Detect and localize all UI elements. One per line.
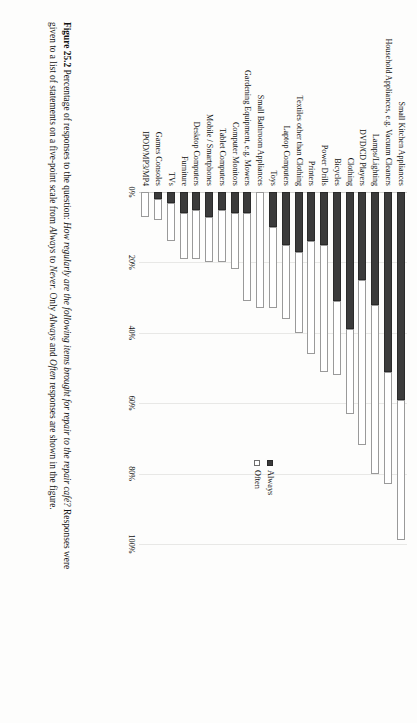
bar-segment-often (346, 329, 354, 413)
caption-scale-to: Never (48, 265, 58, 287)
bar-segment-often (205, 217, 213, 263)
category-axis-label: Clothing (346, 158, 354, 186)
figure-caption: Figure 25.2 Percentage of responses to t… (45, 22, 74, 574)
category-axis-label: DVD/CD Players (358, 129, 366, 186)
gridline (139, 403, 407, 404)
category-axis-label: Small Bathroom Appliances (256, 95, 264, 186)
category-axis-label: Games Consoles (154, 132, 162, 186)
bar-segment-often (307, 241, 315, 354)
bar-row (231, 192, 239, 269)
category-axis-label: IPOD/MP3/MP4 (141, 131, 149, 186)
bar-row (218, 192, 226, 262)
bar-segment-often (192, 210, 200, 259)
bar-segment-often (141, 192, 149, 217)
value-axis-tick-label: 80% (127, 466, 135, 481)
bar-row (180, 192, 188, 259)
category-axis-label: Furniture (180, 156, 188, 186)
value-axis-tick-label: 100% (127, 535, 135, 554)
caption-body2: . Only (48, 288, 58, 314)
bar-segment-often (295, 252, 303, 333)
category-axis-label: Mobile / Smartphones (205, 114, 213, 186)
bar-row (307, 192, 315, 354)
value-axis-tick-label: 60% (127, 396, 135, 411)
bar-row (384, 192, 392, 484)
outlined-square-white-icon (254, 460, 260, 466)
bar-segment-often (218, 210, 226, 263)
bar-segment-always (384, 192, 392, 372)
bar-row (282, 192, 290, 319)
caption-legend-always: Always (48, 314, 58, 341)
bar-segment-often (320, 245, 328, 372)
bar-segment-often (397, 400, 405, 541)
bar-row (154, 192, 162, 220)
bar-segment-often (180, 213, 188, 259)
bar-row (333, 192, 341, 375)
bar-segment-always (243, 192, 251, 213)
caption-body4: responses are shown in the figure. (48, 380, 58, 510)
bar-segment-often (282, 245, 290, 319)
category-axis-label: Household Appliances, e.g. Vacuum Cleane… (384, 38, 392, 186)
legend-item-label: Always (266, 470, 274, 495)
bar-row (167, 192, 175, 241)
legend-item-label: Often (252, 470, 260, 489)
legend-item: Often (252, 460, 260, 544)
bar-segment-always (371, 192, 379, 305)
bar-segment-often (333, 301, 341, 375)
bar-segment-always (154, 192, 162, 199)
value-axis-tick-label: 20% (127, 255, 135, 270)
bar-segment-always (397, 192, 405, 400)
bar-segment-always (269, 192, 277, 227)
bar-row (205, 192, 213, 262)
bar-row (295, 192, 303, 333)
gridline (139, 333, 407, 334)
bar-segment-always (282, 192, 290, 245)
caption-scale-mid: to (48, 253, 58, 265)
bar-segment-often (384, 372, 392, 485)
bar-segment-often (243, 213, 251, 301)
bar-row (358, 192, 366, 445)
value-axis-tick-label: 0% (127, 187, 135, 198)
bar-segment-always (333, 192, 341, 301)
caption-legend-often: Often (48, 359, 58, 380)
bar-segment-often (371, 305, 379, 474)
figure-number: Figure 25.2 (62, 22, 72, 67)
bar-segment-often (269, 227, 277, 308)
value-axis: 0%20%40%60%80%100% (119, 192, 135, 544)
category-axis-label: TVs (167, 172, 175, 186)
category-axis-label: Bicycles (333, 158, 341, 186)
category-axis-label: Gardening Equipment, e.g. Mowers (243, 70, 251, 186)
chart-legend: AlwaysOften (247, 460, 274, 544)
category-axis-label: Toys (269, 170, 277, 186)
bar-row (256, 192, 264, 308)
caption-body3: and (48, 341, 58, 359)
bar-segment-always (205, 192, 213, 217)
bar-segment-always (307, 192, 315, 241)
category-axis-label: Laptop Computers (282, 126, 290, 186)
bar-segment-always (295, 192, 303, 252)
bar-row (141, 192, 149, 217)
caption-lead: Percentage of responses to the question: (62, 69, 72, 222)
legend-item: Always (266, 460, 274, 544)
bar-segment-always (167, 192, 175, 203)
bar-segment-always (358, 192, 366, 280)
bar-segment-often (256, 192, 264, 308)
category-axis-label: Small Kitchen Appliances (397, 101, 405, 186)
bar-segment-often (154, 199, 162, 220)
filled-square-black-icon (267, 460, 273, 466)
bar-segment-always (192, 192, 200, 210)
category-axis: Small Kitchen AppliancesHousehold Applia… (139, 18, 407, 190)
bar-row (346, 192, 354, 414)
category-axis-label: Printers (307, 161, 315, 186)
caption-scale-from: Always (48, 226, 58, 253)
bar-segment-often (358, 280, 366, 445)
bar-segment-always (218, 192, 226, 210)
category-axis-label: Lamps/Lighting (371, 134, 379, 186)
bar-row (243, 192, 251, 301)
bar-segment-always (180, 192, 188, 213)
bar-row (371, 192, 379, 474)
bar-segment-always (346, 192, 354, 329)
bar-row (397, 192, 405, 540)
bar-segment-often (167, 203, 175, 242)
category-axis-label: Textiles other than Clothing (294, 96, 302, 186)
bar-row (269, 192, 277, 308)
